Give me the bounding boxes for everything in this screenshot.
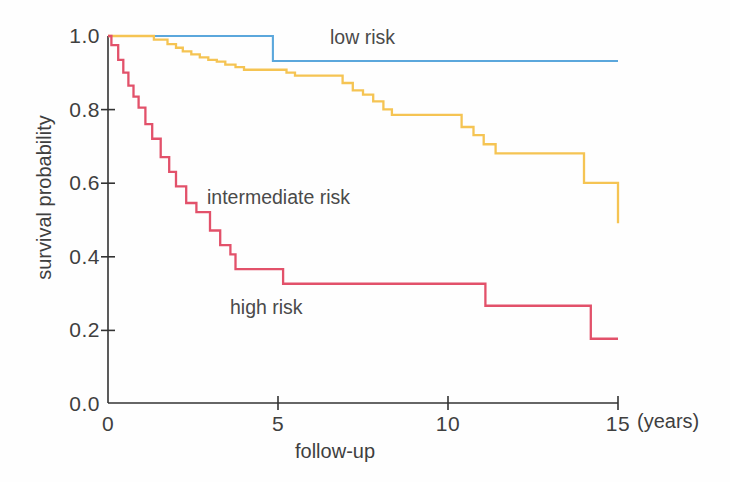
- chart-plot-area: [0, 0, 730, 482]
- series-curves: [108, 36, 618, 339]
- series-label-intermediate-risk: intermediate risk: [207, 186, 350, 209]
- y-tick-label-0.2: 0.2: [38, 318, 100, 342]
- curve-intermediate-risk: [108, 36, 618, 223]
- series-label-low-risk: low risk: [330, 26, 395, 49]
- x-tick-label-5: 5: [248, 412, 308, 436]
- y-axis-title: survival probability: [33, 78, 56, 318]
- series-label-high-risk: high risk: [230, 296, 303, 319]
- x-tick-label-10: 10: [418, 412, 478, 436]
- x-tick-label-0: 0: [78, 412, 138, 436]
- y-tick-label-1.0: 1.0: [38, 24, 100, 48]
- curve-high-risk: [108, 36, 618, 339]
- x-axis-title: follow-up: [295, 440, 375, 463]
- x-axis-units-label: (years): [637, 410, 699, 433]
- survival-chart-figure: 1.0 0.8 0.6 0.4 0.2 0.0 0 5 10 15 (years…: [0, 0, 730, 482]
